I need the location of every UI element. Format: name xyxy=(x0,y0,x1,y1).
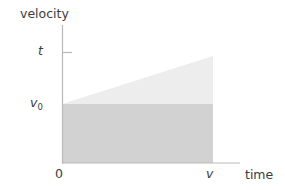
y-tick-label-v0-subscript: 0 xyxy=(37,102,42,112)
y-tick-label-v0: v0 xyxy=(30,97,43,110)
x-tick-label-origin: 0 xyxy=(55,168,63,181)
y-tick-label-t: t xyxy=(38,45,43,58)
x-tick-label-v: v xyxy=(206,168,213,181)
region-rectangle-v0 xyxy=(62,104,213,163)
y-axis-title: velocity xyxy=(20,8,69,21)
region-triangle-acceleration xyxy=(62,56,213,104)
velocity-time-chart xyxy=(0,0,285,190)
x-axis-title: time xyxy=(245,169,273,182)
